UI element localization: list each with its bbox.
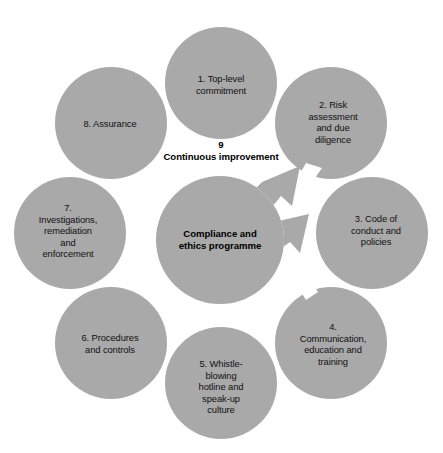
node-circle-5[interactable] <box>165 327 277 439</box>
node-circle-6[interactable] <box>55 287 167 399</box>
node-circle-4[interactable] <box>275 287 387 399</box>
node-circle-7[interactable] <box>14 177 126 289</box>
node-circle-1[interactable] <box>165 27 277 139</box>
node-circle-2[interactable] <box>275 67 387 179</box>
center-circle[interactable] <box>156 176 284 304</box>
compliance-cycle-diagram: 1. Top-level commitment 2. Risk assessme… <box>0 0 443 453</box>
node-circle-3[interactable] <box>316 177 428 289</box>
diagram-canvas <box>0 0 443 453</box>
node-circle-8[interactable] <box>55 67 167 179</box>
